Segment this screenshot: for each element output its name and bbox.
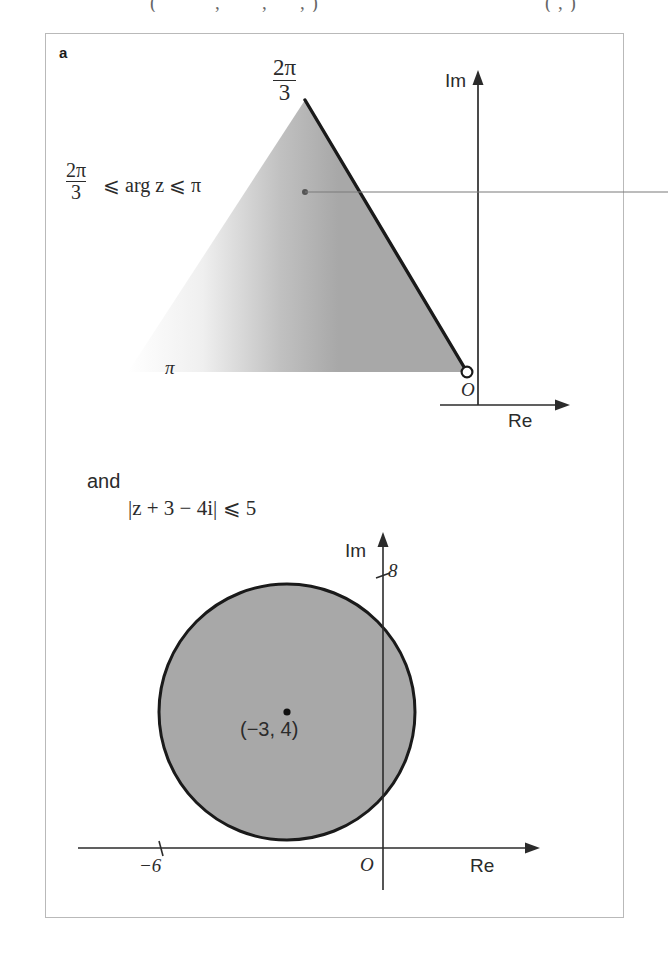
real-axis-label-b: Re	[470, 855, 494, 877]
disc-centre-dot	[283, 708, 290, 715]
disc-centre-label: (−3, 4)	[240, 718, 298, 741]
page-root: ( , , , ) ( , ) a	[0, 0, 668, 954]
argand-disc-svg	[0, 0, 668, 954]
origin-label-b: O	[360, 854, 374, 876]
real-axis-arrowhead-b	[525, 843, 540, 854]
imaginary-axis-arrowhead-b	[378, 532, 389, 547]
real-tick-label-minus-6: −6	[139, 855, 161, 877]
imaginary-tick-label-8: 8	[388, 560, 398, 582]
imaginary-axis-label-b: Im	[345, 540, 366, 562]
